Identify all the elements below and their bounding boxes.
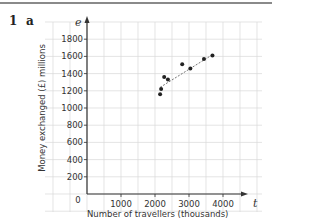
y-axis-arrow-icon xyxy=(85,16,90,23)
x-axis-arrow-icon xyxy=(241,192,248,197)
y-tick-label: 1600 xyxy=(61,51,83,61)
data-point xyxy=(158,92,162,96)
y-tick-label: 1400 xyxy=(61,69,83,79)
data-point xyxy=(188,66,192,70)
origin-label: 0 xyxy=(75,195,80,205)
data-point xyxy=(166,78,170,82)
y-tick-label: 600 xyxy=(67,137,83,147)
x-tick-label: 3000 xyxy=(178,199,200,209)
data-point xyxy=(210,54,214,58)
x-tick-label: 4000 xyxy=(212,199,234,209)
y-tick-label: 1800 xyxy=(61,34,83,44)
y-tick-label: 1000 xyxy=(61,103,83,113)
data-point xyxy=(202,57,206,61)
x-tick-label: 1000 xyxy=(110,199,132,209)
y-axis-symbol: e xyxy=(75,16,82,29)
y-tick-label: 800 xyxy=(67,120,83,130)
y-tick-label: 1200 xyxy=(61,86,83,96)
data-point xyxy=(180,62,184,66)
data-point xyxy=(162,75,166,79)
y-tick-label: 200 xyxy=(67,172,83,182)
x-axis-label: Number of travellers (thousands) xyxy=(87,209,267,219)
x-tick-label: 2000 xyxy=(144,199,166,209)
y-tick-label: 400 xyxy=(67,155,83,165)
y-axis-label: Money exchanged (£) millions xyxy=(37,28,47,188)
data-point xyxy=(159,87,163,91)
